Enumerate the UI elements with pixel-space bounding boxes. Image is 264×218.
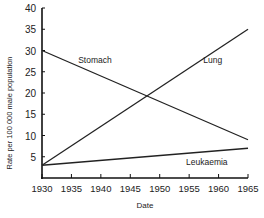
label-stomach: Stomach — [78, 55, 112, 65]
x-tick-label: 1930 — [31, 183, 52, 194]
y-tick-label: 35 — [25, 24, 37, 35]
x-tick-label: 1940 — [90, 183, 111, 194]
label-leukaemia: Leukaemia — [186, 157, 228, 167]
series-line-lung — [42, 29, 248, 165]
x-axis-label: Date — [137, 201, 154, 210]
y-axis-label: Rate per 100 000 male population — [5, 57, 14, 170]
y-tick-label: 10 — [25, 131, 37, 142]
x-tick-label: 1965 — [237, 183, 258, 194]
y-tick-label: 15 — [25, 109, 37, 120]
x-tick-label: 1935 — [61, 183, 82, 194]
label-lung: Lung — [203, 55, 222, 65]
x-tick-label: 1950 — [149, 183, 170, 194]
line-chart: 5101520253035401930193519401945195019551… — [0, 0, 264, 218]
x-tick-label: 1955 — [179, 183, 200, 194]
y-tick-label: 5 — [30, 152, 36, 163]
y-tick-label: 25 — [25, 67, 37, 78]
x-tick-label: 1960 — [208, 183, 229, 194]
x-tick-label: 1945 — [120, 183, 141, 194]
y-tick-label: 30 — [25, 46, 37, 57]
y-tick-label: 20 — [25, 88, 37, 99]
y-tick-label: 40 — [25, 3, 37, 14]
